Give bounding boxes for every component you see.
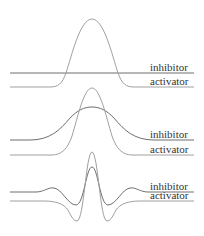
panel-1-activator-label: activator [150, 75, 189, 87]
panel-1-inhibitor-label: inhibitor [150, 61, 188, 73]
panel-1: inhibitor activator [10, 19, 194, 87]
panel-3: inhibitor activator [10, 152, 194, 221]
panel-2-inhibitor-label: inhibitor [150, 128, 188, 140]
panel-3-activator-label: activator [150, 189, 189, 201]
panel-2-activator-label: activator [150, 143, 189, 155]
panel-2: inhibitor activator [10, 88, 194, 155]
activator-inhibitor-diagram: inhibitor activator inhibitor activator … [0, 0, 204, 236]
